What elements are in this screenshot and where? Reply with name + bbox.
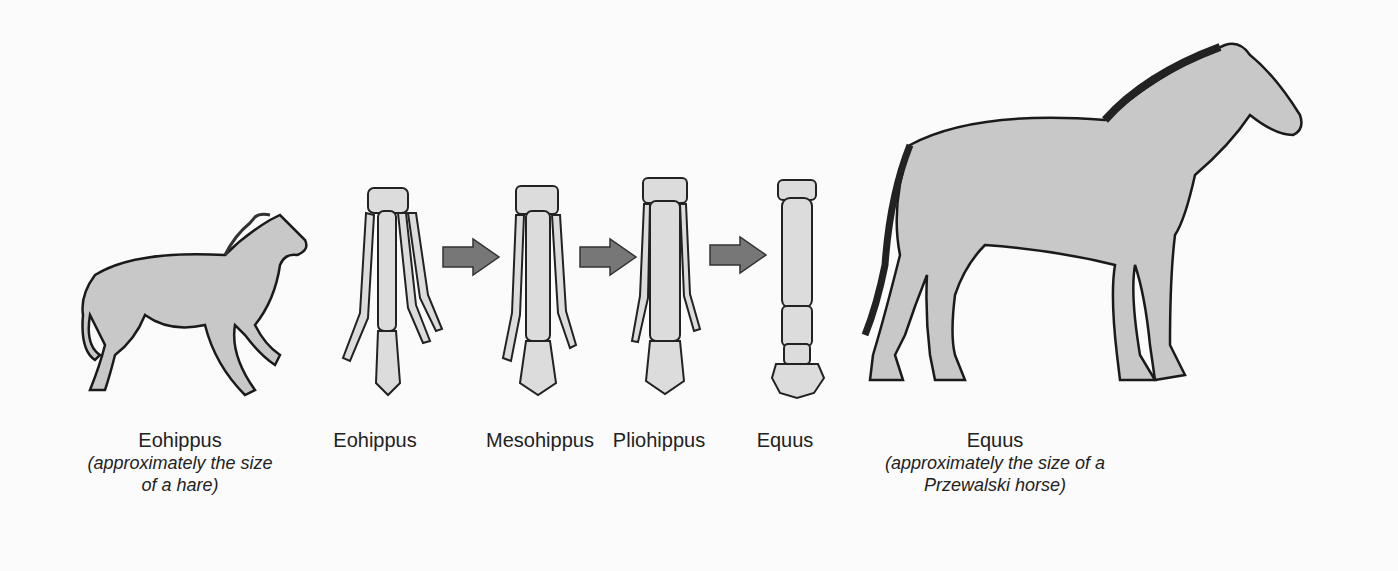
mesohippus-foot-label: Mesohippus bbox=[480, 428, 600, 452]
equus-animal-label: Equus (approximately the size of a Przew… bbox=[860, 428, 1130, 496]
eohippus-illustration bbox=[75, 205, 315, 400]
figure-name: Mesohippus bbox=[486, 429, 594, 451]
figure-caption-line-1: (approximately the size of a bbox=[860, 452, 1130, 474]
right-arrow-icon bbox=[441, 237, 501, 277]
figure-name: Equus bbox=[967, 429, 1024, 451]
figure-caption-line-2: of a hare) bbox=[60, 474, 300, 496]
figure-caption-line-1: (approximately the size bbox=[60, 452, 300, 474]
figure-name: Eohippus bbox=[333, 429, 416, 451]
right-arrow-icon bbox=[708, 235, 768, 275]
figure-caption-line-2: Przewalski horse) bbox=[860, 474, 1130, 496]
pliohippus-foot-bones bbox=[628, 176, 703, 396]
figure-name: Equus bbox=[757, 429, 814, 451]
eohippus-foot-label: Eohippus bbox=[320, 428, 430, 452]
pliohippus-foot-label: Pliohippus bbox=[604, 428, 714, 452]
equus-foot-label: Equus bbox=[745, 428, 825, 452]
figure-name: Eohippus bbox=[138, 429, 221, 451]
equus-foot-bones bbox=[770, 178, 830, 398]
eohippus-animal-label: Eohippus (approximately the size of a ha… bbox=[60, 428, 300, 496]
figure-name: Pliohippus bbox=[613, 429, 705, 451]
equus-illustration bbox=[855, 35, 1315, 390]
eohippus-foot-bones bbox=[338, 183, 443, 398]
mesohippus-foot-bones bbox=[498, 183, 578, 398]
